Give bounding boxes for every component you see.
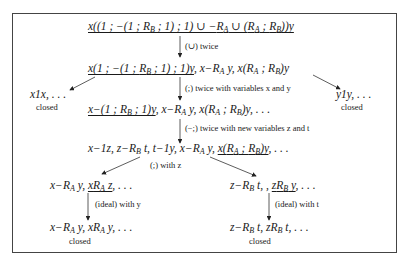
right-leaf-result: z−RB t, zRB t, . . . <box>230 222 309 234</box>
right-leaf-suffix: , . . . <box>296 179 316 191</box>
step2-rest: , x−RA y, x(RA ; RB)y, . . . <box>156 103 271 115</box>
step1-underlined: x(1 ; −(1 ; RB ; 1) ; 1)y <box>88 62 194 74</box>
step2-formula: x−(1 ; RB ; 1)y, x−RA y, x(RA ; RB)y, . … <box>88 104 270 116</box>
arrow-step3-to-left-leaf <box>102 157 140 174</box>
step3-underlined: x(RA ; RB)y <box>218 142 269 154</box>
step3-formula: x−1z, z−RB t, t−1y, x−RA y, x(RA ; RB)y,… <box>88 143 289 155</box>
arrow-step3-to-right-leaf <box>210 157 256 176</box>
root-formula: x((1 ; −(1 ; RB ; 1) ; 1) ∪ −RA ∪ (RA ; … <box>88 21 294 33</box>
left-leaf-status: closed <box>69 237 91 246</box>
right-branch-status: closed <box>341 103 363 112</box>
rule-label-union: (∪) twice <box>185 42 218 51</box>
left-leaf-formula: x−RA y, xRA z, . . . <box>50 180 132 192</box>
left-leaf-rule-label: (ideal) with y <box>95 200 141 209</box>
left-leaf-prefix: x−RA y, <box>50 179 88 191</box>
right-leaf-rule-label: (ideal) with t <box>275 200 319 209</box>
arrow-step1-to-left <box>70 77 95 90</box>
rule-label-semicolon-twice: (;) twice with variables x and y <box>185 84 291 93</box>
arrow-step1-to-right <box>313 75 340 89</box>
step3-prefix: x−1z, z−RB t, t−1y, x−RA y, <box>88 142 218 154</box>
right-leaf-prefix: z−RB t, , <box>230 179 272 191</box>
step3-suffix: , . . . <box>268 142 288 154</box>
right-branch-formula: y1y, . . . <box>336 89 371 101</box>
step1-formula: x(1 ; −(1 ; RB ; 1) ; 1)y, x−RA y, x(RA … <box>88 63 289 75</box>
right-leaf-formula: z−RB t, , zRB y, . . . <box>230 180 316 192</box>
right-leaf-underlined: zRB y <box>272 179 296 191</box>
step2-underlined: x−(1 ; RB ; 1)y <box>88 103 156 115</box>
left-leaf-underlined: xRA z <box>88 179 112 191</box>
left-leaf-result: x−RA y, xRA y, . . . <box>50 222 132 234</box>
left-branch-formula: x1x, . . . <box>30 89 66 101</box>
rule-label-split: (;) with z <box>150 161 181 170</box>
left-branch-status: closed <box>36 103 58 112</box>
step1-rest: , x−RA y, x(RA ; RB)y <box>194 62 289 74</box>
left-leaf-suffix: , . . . <box>112 179 132 191</box>
right-leaf-status: closed <box>249 237 271 246</box>
rule-label-neg-semicolon: (−;) twice with new variables z and t <box>185 124 309 133</box>
